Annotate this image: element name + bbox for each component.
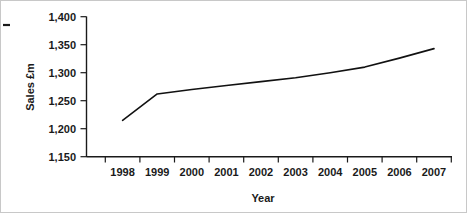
x-tick-label: 2004 xyxy=(318,166,343,178)
x-tick-label: 2006 xyxy=(387,166,411,178)
x-tick-label: 2005 xyxy=(353,166,377,178)
x-tick-label: 1999 xyxy=(145,166,169,178)
y-tick-label: 1,350 xyxy=(48,39,76,51)
x-tick-label: 2000 xyxy=(180,166,204,178)
sales-data-line xyxy=(123,49,434,121)
x-tick-label: 1998 xyxy=(110,166,134,178)
y-tick-label: 1,150 xyxy=(48,151,76,163)
x-tick-label: 2001 xyxy=(214,166,238,178)
y-tick-label: 1,200 xyxy=(48,123,76,135)
y-axis-title: Sales £m xyxy=(24,63,36,111)
y-axis: 1,400 1,350 1,300 1,250 1,200 1,150 Sale… xyxy=(24,11,87,163)
x-tick-label: 2007 xyxy=(422,166,446,178)
y-tick-label: 1,300 xyxy=(48,67,76,79)
x-axis-title: Year xyxy=(251,192,275,204)
y-tick-label: 1,250 xyxy=(48,95,76,107)
x-tick-label: 2003 xyxy=(283,166,307,178)
y-tick-label: 1,400 xyxy=(48,11,76,23)
x-axis: 1998 1999 2000 2001 2002 2003 2004 2005 … xyxy=(87,157,453,204)
x-tick-label: 2002 xyxy=(249,166,273,178)
line-chart: 1,400 1,350 1,300 1,250 1,200 1,150 Sale… xyxy=(1,1,467,213)
chart-figure: 1,400 1,350 1,300 1,250 1,200 1,150 Sale… xyxy=(0,0,467,213)
